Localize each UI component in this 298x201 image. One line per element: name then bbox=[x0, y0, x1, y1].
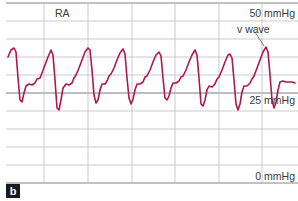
chamber-label: RA bbox=[55, 8, 70, 19]
v-wave-annotation: v wave bbox=[237, 24, 270, 35]
scale-label-0: 0 mmHg bbox=[255, 171, 295, 182]
scale-label-25: 25 mmHg bbox=[249, 95, 295, 106]
panel-label: b bbox=[6, 184, 20, 198]
scale-label-50: 50 mmHg bbox=[249, 8, 295, 19]
